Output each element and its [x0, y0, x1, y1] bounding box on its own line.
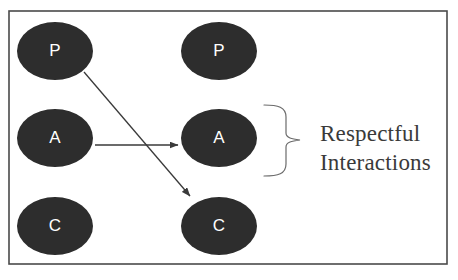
diagram-canvas: P A C P A C [0, 0, 458, 280]
node-label-right-parent: P [213, 41, 225, 60]
parent-to-child-arrow [84, 72, 190, 196]
annotation-line-2: Interactions [320, 150, 431, 175]
grouping-brace [264, 105, 300, 176]
node-left-parent[interactable]: P [17, 22, 93, 80]
node-right-parent[interactable]: P [181, 22, 257, 80]
node-label-right-adult: A [213, 128, 225, 147]
annotation-group: Respectful Interactions [320, 121, 431, 175]
node-label-left-parent: P [49, 41, 61, 60]
annotation-line-1: Respectful [320, 121, 420, 146]
transactional-analysis-diagram: P A C P A C [0, 0, 458, 280]
node-label-right-child: C [213, 216, 226, 235]
transaction-arrows [84, 72, 190, 196]
node-label-left-child: C [49, 216, 62, 235]
node-left-adult[interactable]: A [17, 109, 93, 167]
left-person-group: P A C [17, 22, 93, 255]
node-right-adult[interactable]: A [181, 109, 257, 167]
node-left-child[interactable]: C [17, 197, 93, 255]
right-person-group: P A C [181, 22, 257, 255]
node-label-left-adult: A [49, 128, 61, 147]
node-right-child[interactable]: C [181, 197, 257, 255]
